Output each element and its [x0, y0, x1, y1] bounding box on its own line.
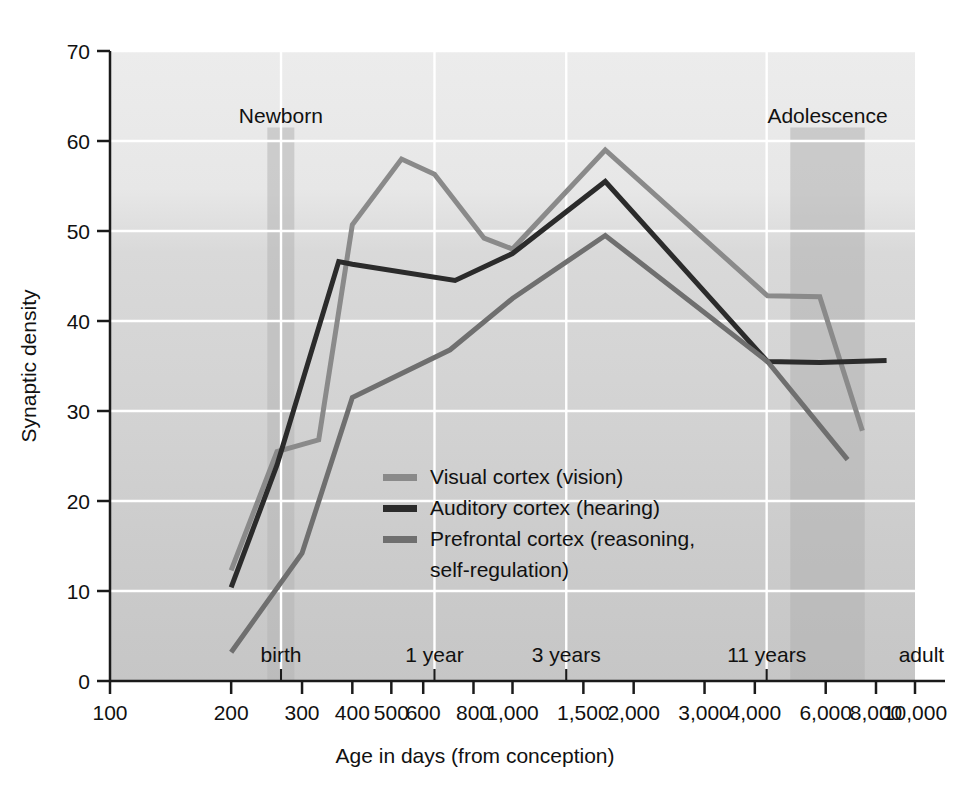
synaptic-density-chart: 010203040506070 1002003004005006008001,0… — [0, 0, 963, 790]
legend-label-0: Visual cortex (vision) — [430, 465, 623, 488]
x-axis-title: Age in days (from conception) — [336, 744, 615, 767]
x-tick-label-6000: 6,000 — [799, 701, 852, 724]
y-tick-label-0: 0 — [78, 670, 90, 693]
legend-swatch-0 — [383, 474, 417, 481]
x-tick-label-200: 200 — [214, 701, 249, 724]
y-axis-ticks: 010203040506070 — [67, 40, 110, 693]
y-tick-label-30: 30 — [67, 400, 90, 423]
y-tick-label-60: 60 — [67, 130, 90, 153]
legend-swatch-1 — [383, 505, 417, 512]
legend-label-1: Auditory cortex (hearing) — [430, 496, 660, 519]
y-tick-label-10: 10 — [67, 580, 90, 603]
legend-label-3: self-regulation) — [430, 558, 569, 581]
chart-canvas: 010203040506070 1002003004005006008001,0… — [0, 0, 963, 790]
x-tick-label-600: 600 — [406, 701, 441, 724]
x-tick-label-3000: 3,000 — [678, 701, 731, 724]
stage-label-11-years: 11 years — [727, 643, 806, 666]
band-title-newborn: Newborn — [239, 104, 323, 127]
stage-label-birth: birth — [261, 643, 302, 666]
stage-label-1-year: 1 year — [405, 643, 463, 666]
stage-label-adult: adult — [899, 643, 945, 666]
legend-label-2: Prefrontal cortex (reasoning, — [430, 527, 695, 550]
x-tick-label-10000: 10,000 — [883, 701, 947, 724]
y-tick-label-20: 20 — [67, 490, 90, 513]
x-axis-ticks: 1002003004005006008001,0001,5002,0003,00… — [92, 681, 947, 724]
x-tick-label-2000: 2,000 — [607, 701, 660, 724]
x-tick-label-4000: 4,000 — [729, 701, 782, 724]
x-tick-label-1500: 1,500 — [557, 701, 610, 724]
legend-swatch-2 — [383, 536, 417, 543]
x-tick-label-100: 100 — [92, 701, 127, 724]
y-tick-label-50: 50 — [67, 220, 90, 243]
x-tick-label-1000: 1,000 — [486, 701, 539, 724]
stage-label-3-years: 3 years — [532, 643, 601, 666]
x-tick-label-500: 500 — [374, 701, 409, 724]
x-tick-label-300: 300 — [285, 701, 320, 724]
y-tick-label-40: 40 — [67, 310, 90, 333]
y-axis-title: Synaptic density — [17, 289, 40, 442]
band-title-adolescence: Adolescence — [767, 104, 887, 127]
y-tick-label-70: 70 — [67, 40, 90, 63]
x-tick-label-400: 400 — [335, 701, 370, 724]
